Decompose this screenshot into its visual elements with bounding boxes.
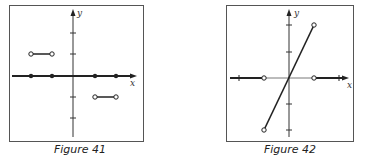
figure-caption: Figure 42 bbox=[260, 143, 320, 156]
figure-42: y x Figure 42 bbox=[190, 0, 367, 161]
x-axis-label: x bbox=[130, 78, 135, 88]
figure-41-graph: y x bbox=[0, 0, 180, 161]
figure-caption: Figure 41 bbox=[50, 143, 110, 156]
figure-41: y x Figure 41 bbox=[0, 0, 180, 161]
x-axis-label: x bbox=[347, 80, 352, 90]
figure-42-graph: y x bbox=[190, 0, 367, 161]
y-axis-label: y bbox=[76, 8, 83, 18]
y-axis-label: y bbox=[293, 8, 300, 18]
